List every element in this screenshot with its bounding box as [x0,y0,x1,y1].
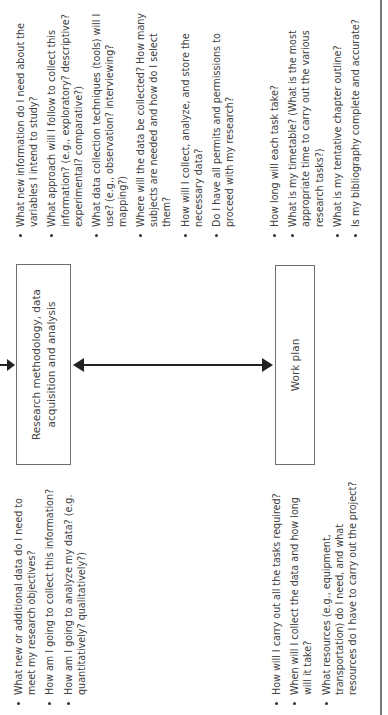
list-item: What approach will I follow to collect t… [45,3,85,239]
list-item: What is my tentative chapter outline? [331,3,344,239]
incoming-arrow-icon [0,355,16,375]
research-questions-left: What new information do I need about the… [14,3,135,239]
research-methodology-box: Research methodology, data acquisition a… [16,264,71,465]
list-item: What new or additional data do I need to… [12,479,38,707]
list-item: How long will each task take? [268,3,281,239]
list-item: What new information do I need about the… [14,3,40,239]
list-item: How am I going to collect this informati… [43,479,56,707]
research-methodology-label: Research methodology, data acquisition a… [29,283,59,446]
work-plan-box: Work plan [275,265,315,465]
list-item: How will I collect, analyze, and store t… [179,3,205,239]
list-item: How will I carry out all the tasks requi… [270,479,283,707]
list-item: What resources (e.g., equipment, transpo… [320,479,360,707]
list-item: When will I collect the data and how lon… [288,479,314,707]
workplan-questions-early: How will I carry out all the tasks requi… [270,479,364,707]
research-questions-early: What new or additional data do I need to… [12,479,93,707]
list-item: Do I have all permits and permissions to… [210,3,236,239]
research-questions-right: Where will the data be collected? How ma… [134,3,241,239]
rotated-page: What new or additional data do I need to… [0,0,388,715]
list-item: What data collection techniques (tools) … [90,3,130,239]
work-plan-label: Work plan [288,339,303,392]
list-item: What is my timetable? (What is the most … [286,3,326,239]
list-item: How am I going to analyze my data? (e.g.… [62,479,88,707]
page-edge-line [380,0,382,715]
list-item: Where will the data be collected? How ma… [134,3,174,239]
workplan-questions-late: How long will each task take? What is my… [268,3,367,239]
list-item: Is my bibliography complete and accurate… [349,3,362,239]
double-arrow-icon [72,355,274,375]
